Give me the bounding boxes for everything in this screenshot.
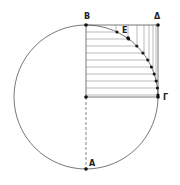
point-A xyxy=(84,167,88,171)
label-Γ: Γ xyxy=(163,93,168,102)
point-Δ xyxy=(156,23,160,27)
label-E: E xyxy=(122,26,127,35)
strip-point xyxy=(153,72,156,75)
point-B xyxy=(84,23,88,27)
point-Γ xyxy=(156,95,160,99)
point-E xyxy=(126,36,130,40)
label-B: B xyxy=(84,12,90,21)
strip-point xyxy=(156,86,159,89)
strip-point xyxy=(150,65,153,68)
label-A: A xyxy=(89,159,96,168)
label-Δ: Δ xyxy=(154,12,161,21)
diagram-canvas: BΔΓAE xyxy=(0,0,180,185)
center-point xyxy=(84,95,88,99)
